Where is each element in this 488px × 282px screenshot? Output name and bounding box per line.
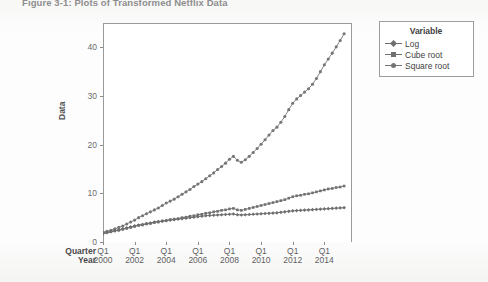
y-tick-mark xyxy=(100,47,103,48)
x-tick-mark xyxy=(135,242,136,245)
legend-item-cube-root[interactable]: Cube root xyxy=(385,49,467,60)
x-tick-mark xyxy=(103,242,104,245)
legend-item-square-root[interactable]: Square root xyxy=(385,60,467,71)
legend-title: Variable xyxy=(385,26,467,36)
legend-entries: LogCube rootSquare root xyxy=(385,38,467,71)
x-tick-label-year: 2012 xyxy=(276,255,310,265)
legend-marker-circle-icon xyxy=(385,61,402,70)
legend-marker-square-icon xyxy=(385,50,402,59)
y-tick-mark xyxy=(100,96,103,97)
x-tick-mark xyxy=(229,242,230,245)
legend-label: Log xyxy=(405,39,419,49)
y-axis-title: Data xyxy=(57,102,67,120)
y-tick-mark xyxy=(100,193,103,194)
x-tick-mark xyxy=(261,242,262,245)
x-tick-label-year: 2008 xyxy=(212,255,246,265)
series-square-root xyxy=(103,32,346,234)
legend-label: Cube root xyxy=(405,50,442,60)
y-tick-label: 30 xyxy=(73,91,97,101)
legend[interactable]: Variable LogCube rootSquare root xyxy=(379,21,474,77)
y-tick-label: 10 xyxy=(73,188,97,198)
x-tick-label-year: 2010 xyxy=(244,255,278,265)
x-tick-mark xyxy=(293,242,294,245)
x-tick-label-year: 2004 xyxy=(149,255,183,265)
figure-root: Figure 3-1: Plots of Transformed Netflix… xyxy=(0,0,488,282)
x-tick-mark xyxy=(166,242,167,245)
x-tick-mark xyxy=(198,242,199,245)
plot-canvas xyxy=(103,23,352,242)
x-tick-label-year: 2014 xyxy=(307,255,341,265)
y-tick-mark xyxy=(100,145,103,146)
x-tick-label-year: 2006 xyxy=(181,255,215,265)
y-tick-label: 20 xyxy=(73,140,97,150)
legend-marker-diamond-icon xyxy=(385,39,402,48)
x-tick-label-year: 2000 xyxy=(86,255,120,265)
x-tick-mark xyxy=(324,242,325,245)
legend-item-log[interactable]: Log xyxy=(385,38,467,49)
legend-label: Square root xyxy=(405,61,449,71)
x-tick-label-year: 2002 xyxy=(118,255,152,265)
figure-caption: Figure 3-1: Plots of Transformed Netflix… xyxy=(22,0,228,8)
y-tick-label: 40 xyxy=(73,42,97,52)
